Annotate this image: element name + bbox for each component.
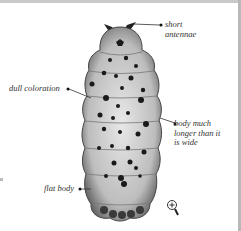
larva-illustration bbox=[0, 0, 241, 231]
label-flat-body: flat body bbox=[44, 184, 74, 194]
label-body-longer-than-wide: body much longer than it is wide bbox=[174, 119, 220, 148]
magnifier-plus-icon[interactable] bbox=[166, 199, 180, 219]
label-dull-coloration: dull coloration bbox=[9, 84, 60, 94]
label-short-antennae: short antennae bbox=[165, 20, 196, 39]
